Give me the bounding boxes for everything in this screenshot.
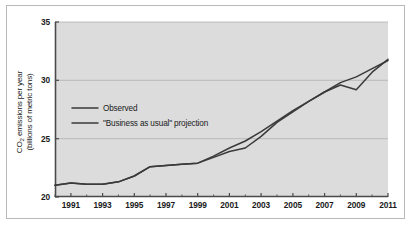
x-axis-tick-labels: 1991199319951997199920012003200520072009… xyxy=(62,200,397,210)
y-tick-label-20: 20 xyxy=(41,192,51,202)
figure-container: 20253035 1991199319951997199920012003200… xyxy=(0,0,412,234)
svg-text:CO2 emissions per year: CO2 emissions per year xyxy=(15,70,25,153)
y-axis-title-line1-post: emissions per year xyxy=(15,70,24,138)
y-axis-title-line2: (billions of metric tons) xyxy=(25,73,34,151)
y-tick-label-25: 25 xyxy=(41,134,51,144)
x-tick-label-1999: 1999 xyxy=(189,200,208,210)
x-tick-label-2007: 2007 xyxy=(316,200,335,210)
x-tick-label-1995: 1995 xyxy=(125,200,144,210)
y-axis-tick-labels: 20253035 xyxy=(41,17,51,202)
legend-label-0: Observed xyxy=(103,104,138,113)
y-tick-label-35: 35 xyxy=(41,17,51,27)
x-tick-label-2009: 2009 xyxy=(347,200,366,210)
y-tick-label-30: 30 xyxy=(41,75,51,85)
co2-emissions-line-chart: 20253035 1991199319951997199920012003200… xyxy=(0,0,412,234)
x-tick-label-2011: 2011 xyxy=(379,200,397,210)
y-axis-title: CO2 emissions per year (billions of metr… xyxy=(15,70,34,153)
y-axis-title-line1-pre: CO xyxy=(15,141,24,153)
legend-label-1: "Business as usual" projection xyxy=(103,119,209,128)
x-tick-label-2001: 2001 xyxy=(220,200,239,210)
x-tick-label-2005: 2005 xyxy=(284,200,303,210)
x-tick-label-1997: 1997 xyxy=(157,200,176,210)
x-tick-label-2003: 2003 xyxy=(252,200,271,210)
x-tick-label-1993: 1993 xyxy=(94,200,113,210)
x-tick-label-1991: 1991 xyxy=(62,200,81,210)
